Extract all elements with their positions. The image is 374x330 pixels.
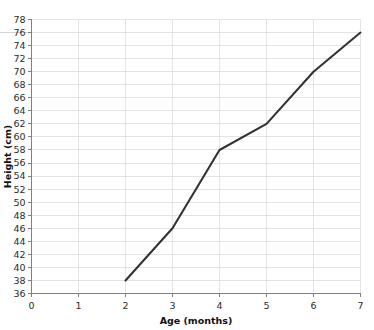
y-tick-label: 70: [13, 66, 25, 77]
x-tick-label: 1: [75, 300, 81, 311]
y-tick-label: 48: [13, 210, 25, 221]
y-tick-label: 40: [13, 262, 25, 273]
y-tick-label: 62: [13, 118, 25, 129]
x-tick-label: 3: [169, 300, 175, 311]
y-tick-label: 72: [13, 53, 25, 64]
y-axis-title: Height (cm): [2, 125, 13, 188]
x-tick-label: 0: [28, 300, 34, 311]
y-tick-label: 60: [13, 131, 25, 142]
y-tick-label: 56: [13, 157, 25, 168]
y-tick-label: 64: [13, 105, 25, 116]
y-tick-label: 36: [13, 288, 25, 299]
y-tick-label: 58: [13, 144, 25, 155]
x-tick-label: 2: [122, 300, 128, 311]
x-axis-title: Age (months): [160, 315, 233, 326]
y-tick-label: 68: [13, 79, 25, 90]
y-tick-label: 38: [13, 275, 25, 286]
chart-svg: 3638404244464850525456586062646668707274…: [0, 0, 374, 330]
y-tick-label: 54: [13, 170, 25, 181]
y-tick-label: 52: [13, 184, 25, 195]
y-tick-label: 44: [13, 236, 25, 247]
y-tick-label: 42: [13, 249, 25, 260]
x-tick-label: 7: [357, 300, 363, 311]
x-tick-label: 6: [310, 300, 316, 311]
y-tick-label: 66: [13, 92, 25, 103]
y-tick-label: 50: [13, 197, 25, 208]
y-tick-label: 74: [13, 40, 25, 51]
x-tick-label: 4: [216, 300, 222, 311]
y-tick-label: 76: [13, 27, 25, 38]
y-tick-label: 46: [13, 223, 25, 234]
y-tick-label: 78: [13, 14, 25, 25]
line-chart: 3638404244464850525456586062646668707274…: [0, 0, 374, 330]
x-tick-label: 5: [263, 300, 269, 311]
